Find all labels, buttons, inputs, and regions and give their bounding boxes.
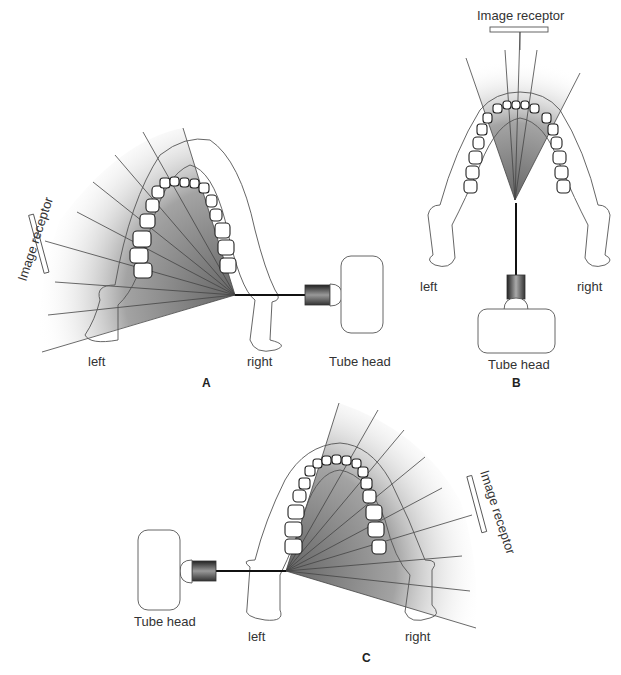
tube-head <box>478 275 555 353</box>
tube-head-label: Tube head <box>134 614 196 629</box>
right-label: right <box>577 279 603 294</box>
panel-c: Image receptor Tube head left right C <box>134 403 519 665</box>
left-label: left <box>420 279 438 294</box>
tube-head-label: Tube head <box>488 357 550 372</box>
tube-head <box>305 256 383 333</box>
panel-b: Image receptor left right Tube head B <box>420 8 610 390</box>
left-label: left <box>248 629 266 644</box>
dental-projection-diagram: Image receptor left right Tube head A <box>0 0 621 675</box>
panel-label: A <box>202 376 211 390</box>
tube-head <box>138 530 216 610</box>
right-label: right <box>247 354 273 369</box>
panel-a: Image receptor left right Tube head A <box>15 128 391 390</box>
left-label: left <box>88 354 106 369</box>
panel-label: B <box>512 376 521 390</box>
right-label: right <box>405 629 431 644</box>
image-receptor <box>490 27 548 32</box>
image-receptor-label: Image receptor <box>477 468 518 556</box>
tube-head-label: Tube head <box>329 354 391 369</box>
panel-label: C <box>362 651 371 665</box>
image-receptor-label: Image receptor <box>477 8 565 23</box>
